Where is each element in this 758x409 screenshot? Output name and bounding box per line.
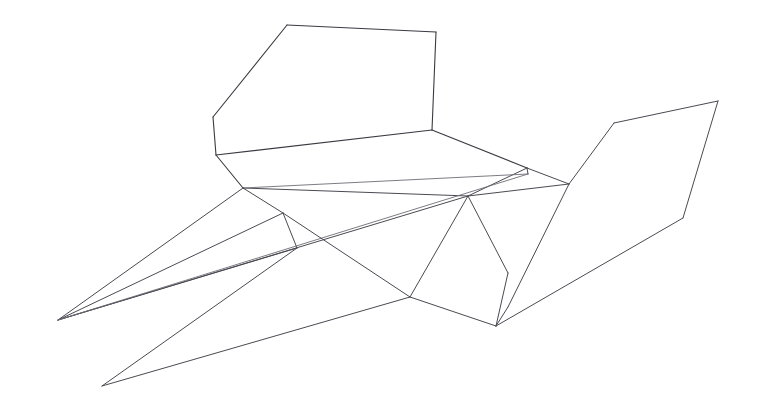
runner-upper-mid [58,213,283,320]
backrest-top-edge [287,25,436,32]
wireframe-sketch [0,0,758,409]
seat-back-edge [216,130,432,155]
base-lower-rail [102,297,410,386]
wing-top-edge [614,101,718,123]
seat-right-edge [432,130,527,168]
runner-upper-front [58,188,243,320]
apex-to-wing-junction [468,184,569,196]
seat-underside-edge [243,174,528,188]
base-left-to-bottom [410,297,496,326]
backrest-upper-left-edge [213,25,287,117]
leg-node-connector [283,213,297,248]
seat-front-edge [243,188,468,196]
apex-to-mid-right [468,196,508,273]
runner-long-to-apex [58,196,468,320]
backrest-left-edge [213,117,216,155]
wing-lower-edge [496,218,683,326]
drawing-canvas [0,0,758,409]
seat-front-edge-right [468,168,527,196]
mid-right-to-bottom [496,273,508,326]
runner-bottom-rail [102,248,297,386]
seat-thickness-edge [527,168,528,174]
leg-upper-strut [243,188,283,213]
seat-right-to-junction [527,168,569,184]
runner-long-to-under [58,174,528,320]
wing-inner-edge [569,123,614,184]
edge-layer [58,25,718,386]
seat-left-edge [216,155,243,188]
wing-outer-edge [683,101,718,218]
runner-lower-diagonal [283,213,410,297]
backrest-right-edge [432,32,436,130]
